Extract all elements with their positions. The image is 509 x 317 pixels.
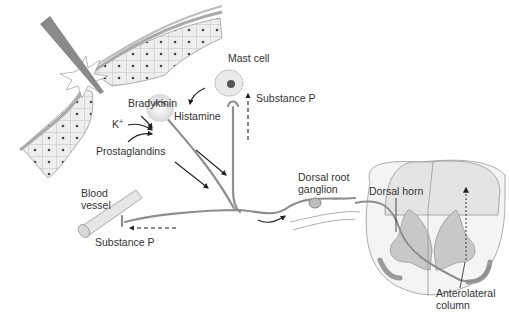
label-prostaglandins: Prostaglandins	[96, 145, 165, 157]
spinal-cord-cross-section	[355, 160, 505, 296]
label-dorsal-root-1: Dorsal root	[298, 171, 349, 183]
label-histamine: Histamine	[174, 110, 221, 122]
dorsal-root-ganglion-icon	[309, 198, 321, 208]
label-blood-vessel-2: vessel	[81, 199, 111, 211]
k-arrow	[128, 124, 152, 130]
label-dorsal-root-2: ganglion	[298, 183, 338, 195]
label-substance-p-top: Substance P	[256, 92, 316, 104]
skin-tissue-lower	[20, 88, 93, 178]
pain-pathway-diagram: Mast cell Substance P Bradykinin Histami…	[0, 0, 509, 317]
histamine-arrow	[190, 88, 205, 104]
label-bradykinin: Bradykinin	[128, 97, 177, 109]
skin-tissue-upper	[92, 6, 222, 86]
ganglion-arrow	[258, 216, 285, 222]
label-blood-vessel-1: Blood	[81, 187, 108, 199]
label-anterolateral-2: column	[436, 299, 470, 311]
label-mast-cell: Mast cell	[228, 52, 269, 64]
afferent-arrow-1	[175, 162, 208, 188]
prostaglandins-arrow	[128, 134, 152, 142]
label-k-plus: K+	[112, 118, 123, 130]
label-substance-p-bottom: Substance P	[95, 236, 155, 248]
label-anterolateral-1: Anterolateral	[436, 287, 496, 299]
label-dorsal-horn: Dorsal horn	[369, 185, 423, 197]
mast-cell-icon	[215, 70, 243, 96]
